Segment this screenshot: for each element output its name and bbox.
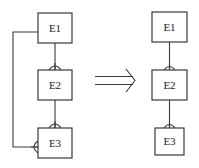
- after-entity-e2-label: E2: [163, 79, 175, 91]
- before-entity-e1-label: E1: [49, 22, 61, 34]
- before-entity-e1: E1: [38, 13, 72, 43]
- transform-arrow-icon: [95, 69, 135, 92]
- after-entity-e2: E2: [152, 70, 187, 100]
- before-e2-crowsfoot-icon: [49, 63, 61, 70]
- before-entity-e2: E2: [38, 70, 72, 100]
- before-entity-e3: E3: [38, 128, 72, 158]
- after-e2-crowsfoot-icon: [164, 64, 175, 70]
- er-diagram-canvas: E1 E2 E3 E1 E2 E3: [0, 0, 199, 168]
- before-e1-e3-bracket-connector: [13, 32, 38, 147]
- after-entity-e1-label: E1: [163, 21, 175, 33]
- before-entity-e2-label: E2: [49, 79, 61, 91]
- after-e3-crowsfoot-icon: [164, 122, 175, 128]
- after-entity-e1: E1: [152, 12, 187, 42]
- before-e3-side-crowsfoot-icon: [31, 141, 38, 153]
- before-e3-crowsfoot-icon: [49, 121, 61, 128]
- before-diagram: E1 E2 E3: [13, 13, 72, 158]
- after-diagram: E1 E2 E3: [152, 12, 187, 155]
- before-entity-e3-label: E3: [49, 137, 62, 149]
- after-entity-e3-label: E3: [163, 135, 176, 147]
- after-entity-e3: E3: [155, 128, 184, 155]
